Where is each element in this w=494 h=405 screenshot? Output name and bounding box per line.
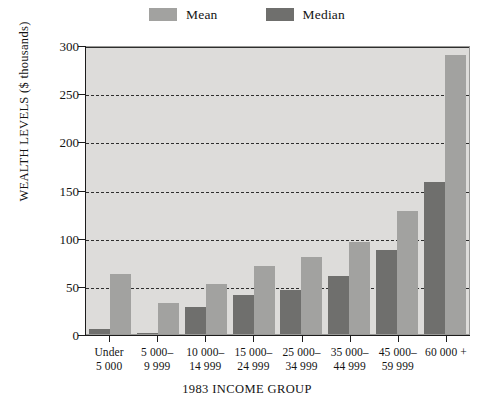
legend-item-mean: Mean [149, 8, 218, 22]
x-axis-tick [350, 335, 351, 342]
bar-mean[interactable] [445, 55, 466, 334]
y-axis-tick-label: 0 [43, 329, 79, 342]
y-axis-tick [78, 335, 85, 336]
bar-group [373, 47, 421, 334]
x-axis-tick [302, 335, 303, 342]
y-axis-tick-label: 200 [43, 136, 79, 149]
bar-mean[interactable] [110, 274, 131, 334]
y-axis-title: WEALTH LEVELS ($ thousands) [17, 0, 32, 232]
bar-mean[interactable] [397, 211, 418, 334]
y-axis-line [85, 46, 86, 335]
x-axis-tick-label: 15 000– 24 999 [229, 346, 277, 373]
x-axis-tick-label: 60 000 + [422, 346, 470, 373]
bar-median[interactable] [137, 333, 158, 334]
y-axis-tick [78, 239, 85, 240]
chart-legend: Mean Median [0, 8, 494, 22]
bar-median[interactable] [424, 182, 445, 334]
bar-mean[interactable] [158, 303, 179, 334]
x-axis-title: 1983 INCOME GROUP [0, 382, 494, 397]
x-axis-tick [205, 335, 206, 342]
x-axis-tick [398, 335, 399, 342]
bar-group [325, 47, 373, 334]
bar-mean[interactable] [254, 266, 275, 334]
y-axis-tick-label: 100 [43, 233, 79, 246]
plot-inner [86, 47, 469, 334]
y-axis-tick-label: 250 [43, 88, 79, 101]
bar-median[interactable] [328, 276, 349, 334]
bar-group [230, 47, 278, 334]
bar-median[interactable] [233, 295, 254, 334]
bar-mean[interactable] [349, 242, 370, 334]
bar-median[interactable] [185, 307, 206, 334]
y-axis-tick [78, 46, 85, 47]
x-axis-tick-labels: Under 5 0005 000– 9 99910 000– 14 99915 … [85, 346, 470, 373]
legend-label-median: Median [303, 8, 345, 22]
x-axis-tick-label: 35 000– 44 999 [326, 346, 374, 373]
bar-median[interactable] [376, 250, 397, 334]
x-axis-ticks [85, 335, 470, 342]
bar-group [134, 47, 182, 334]
bar-group [86, 47, 134, 334]
legend-item-median: Median [266, 8, 345, 22]
y-axis-tick [78, 287, 85, 288]
y-axis-tick-label: 150 [43, 185, 79, 198]
legend-swatch-median [266, 8, 294, 21]
y-axis-tick [78, 94, 85, 95]
x-axis-tick-label: 5 000– 9 999 [133, 346, 181, 373]
x-axis-tick-label: 25 000– 34 999 [278, 346, 326, 373]
legend-swatch-mean [149, 8, 177, 21]
legend-label-mean: Mean [186, 8, 218, 22]
x-axis-tick-label: 45 000– 59 999 [374, 346, 422, 373]
x-axis-tick-label: Under 5 000 [85, 346, 133, 373]
y-axis-tick [78, 191, 85, 192]
bar-group [182, 47, 230, 334]
bar-mean[interactable] [301, 257, 322, 334]
bar-group [278, 47, 326, 334]
bar-mean[interactable] [206, 284, 227, 334]
bar-median[interactable] [89, 329, 110, 334]
x-axis-tick-label: 10 000– 14 999 [181, 346, 229, 373]
y-axis-tick-label: 300 [43, 40, 79, 53]
bar-median[interactable] [280, 290, 301, 334]
bar-group [421, 47, 469, 334]
x-axis-tick [253, 335, 254, 342]
x-axis-tick [109, 335, 110, 342]
bar-chart: Mean Median 050100150200250300 WEALTH LE… [0, 0, 494, 405]
y-axis-tick [78, 142, 85, 143]
bars-layer [86, 47, 469, 334]
x-axis-tick [157, 335, 158, 342]
plot-area [85, 46, 470, 335]
x-axis-tick [446, 335, 447, 342]
y-axis-tick-label: 50 [43, 281, 79, 294]
